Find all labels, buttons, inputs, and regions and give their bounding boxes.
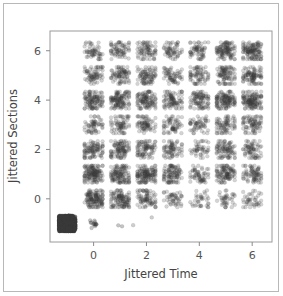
point-cluster bbox=[150, 216, 154, 220]
point-cluster bbox=[136, 164, 158, 185]
point-cluster bbox=[83, 139, 105, 160]
y-axis-title: Jittered Sections bbox=[6, 89, 20, 184]
point-cluster bbox=[215, 65, 236, 86]
point-cluster bbox=[136, 65, 158, 86]
point-cluster bbox=[109, 164, 131, 185]
x-axis-tick-label: 6 bbox=[249, 249, 256, 262]
point-cluster bbox=[83, 90, 105, 111]
point-cluster bbox=[241, 139, 263, 160]
x-axis-title: Jittered Time bbox=[123, 267, 197, 281]
point-cluster bbox=[83, 164, 105, 185]
point-cluster bbox=[241, 40, 263, 61]
point-cluster bbox=[215, 164, 237, 185]
chart-figure: 02460246 Jittered Time Jittered Sections bbox=[0, 0, 283, 296]
y-axis-tick-label: 6 bbox=[34, 45, 41, 58]
point-cluster bbox=[109, 40, 131, 61]
point-cluster bbox=[241, 65, 263, 86]
y-axis-tick-label: 0 bbox=[34, 193, 41, 206]
point-cluster bbox=[241, 90, 263, 111]
y-axis-tick-label: 2 bbox=[34, 143, 41, 156]
point-cluster bbox=[131, 223, 135, 227]
point-cluster bbox=[136, 90, 158, 111]
point-cluster bbox=[241, 114, 263, 135]
point-cluster bbox=[57, 214, 77, 233]
x-axis-tick-label: 4 bbox=[196, 249, 203, 262]
point-cluster bbox=[188, 90, 210, 111]
point-cluster bbox=[136, 114, 158, 134]
plot-background bbox=[50, 31, 272, 242]
point-cluster bbox=[136, 189, 158, 210]
point-cluster bbox=[162, 90, 184, 111]
x-axis-tick-label: 2 bbox=[143, 249, 150, 262]
scatter-plot: 02460246 Jittered Time Jittered Sections bbox=[0, 0, 283, 296]
x-axis-tick-label: 0 bbox=[90, 249, 97, 262]
point-cluster bbox=[109, 189, 131, 210]
y-axis-tick-label: 4 bbox=[34, 94, 41, 107]
point-cluster bbox=[136, 40, 158, 61]
